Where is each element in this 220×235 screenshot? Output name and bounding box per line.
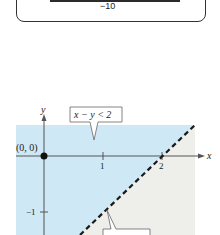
y-axis-arrow-icon: [42, 114, 47, 121]
inequality-graph: y x 1 2 −1 (0, 0) x − y < 2: [0, 0, 220, 235]
origin-label: (0, 0): [16, 142, 38, 154]
x-tick-label-2: 2: [159, 161, 164, 171]
x-axis-label: x: [206, 150, 212, 161]
origin-point: [41, 153, 48, 160]
y-tick-label-neg1: −1: [26, 207, 36, 217]
x-tick-label-1: 1: [100, 161, 105, 171]
callout-top-text: x − y < 2: [73, 109, 111, 120]
x-axis-arrow-icon: [198, 154, 205, 159]
y-axis-label: y: [40, 104, 46, 115]
